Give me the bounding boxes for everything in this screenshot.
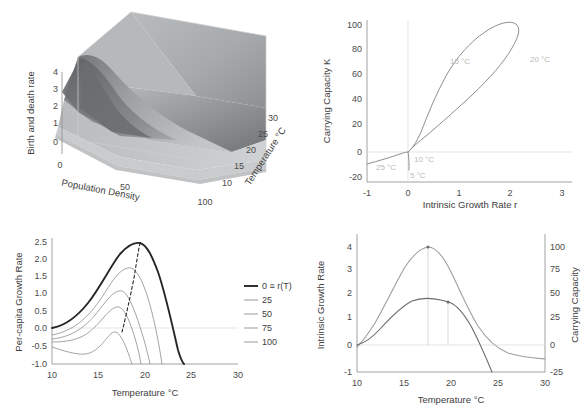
y-tick-left: 0 [347,340,352,350]
panel-r-K-tradeoff: 100 80 60 40 20 0 -20 -1 0 1 2 3 [300,0,587,210]
y-tick-left: 4 [347,242,352,252]
y-tick-right: 75 [550,264,560,274]
y-tick: 2.0 [34,254,47,264]
panel-b-svg: 100 80 60 40 20 0 -20 -1 0 1 2 3 [300,0,587,210]
y-tick: 1.5 [34,271,47,281]
y-tick-right: 25 [550,312,560,322]
annot-10c: 10 °C [414,155,434,164]
x-tick: 2 [507,188,512,198]
x-tick: 20 [140,370,150,380]
y-ticks-c: 2.5 2.0 1.5 1.0 0.5 0.0 -0.5 -1.0 [31,237,47,369]
growth-curve-0-rT [52,243,184,364]
y-tick-right: 50 [550,288,560,298]
y-axis-label-c: Per-capita Growth Rate [13,252,24,351]
y-tick: 0.0 [34,323,47,333]
x-tick: 25 [493,378,503,388]
x-tick: 0 [405,188,410,198]
x-tick: -1 [363,188,371,198]
y-tick: 15 [234,161,244,171]
peak-markers [427,246,450,304]
annot-25c: 25 °C [376,163,396,172]
panel-surface-birth-death: 4 3 2 1 0 Birth and death rate 0 50 100 … [0,0,300,210]
y-tick-right: -25 [550,367,563,377]
y-tick-left: 1 [347,312,352,322]
z-axis-birth-death-rate: 4 3 2 1 0 Birth and death rate [25,67,62,155]
y-axis-label-b: Carrying Capacity K [321,58,332,143]
y-tick: 60 [352,69,362,79]
panel-per-capita-growth: 2.5 2.0 1.5 1.0 0.5 0.0 -0.5 -1.0 10 15 … [0,210,300,409]
y-tick: 30 [268,113,278,123]
growth-curve-25 [52,268,162,364]
y-tick: -20 [349,172,362,182]
y-tick: 2.5 [34,237,47,247]
peak-marker-r [447,301,450,304]
x-axis-label: Population Density [61,177,141,203]
growth-curve-50 [52,291,150,364]
y-ticks-right-d: 100 75 50 25 0 -25 [550,242,565,377]
x-tick: 15 [93,370,103,380]
y-tick: 20 [246,145,256,155]
legend-label-0: 0 ≡ r(T) [262,281,292,291]
y-tick: 0.5 [34,306,47,316]
y-tick-left: 3 [347,264,352,274]
annot-5c: 5 °C [410,171,426,180]
legend-item-100[interactable]: 100 [244,337,277,347]
legend-item-50[interactable]: 50 [244,309,272,319]
legend-item-0[interactable]: 0 ≡ r(T) [244,281,292,291]
z-tick: 0 [53,137,58,147]
panel-r-and-K-vs-temperature: 4 3 2 1 0 -1 100 75 50 25 0 -25 10 [300,210,587,409]
plot-area-b: 100 80 60 40 20 0 -20 -1 0 1 2 3 [321,20,572,210]
temperature-annotations-b: 5 °C 10 °C 15 °C 20 °C 25 °C [376,55,550,180]
z-tick: 3 [53,84,58,94]
y-axis-label-right-d: Carrying Capacity [569,267,580,343]
x-tick: 100 [197,197,212,207]
panel-c-svg: 2.5 2.0 1.5 1.0 0.5 0.0 -0.5 -1.0 10 15 … [0,210,300,409]
y-tick: 80 [352,44,362,54]
growth-curve-75 [52,307,141,364]
x-tick: 30 [233,370,243,380]
x-ticks-b: -1 0 1 2 3 [363,188,565,198]
plot-area-c: 2.5 2.0 1.5 1.0 0.5 0.0 -0.5 -1.0 10 15 … [13,237,243,398]
x-tick: 15 [399,378,409,388]
y-tick-left: -1 [344,367,352,377]
growth-curve-family [52,243,184,364]
x-tick: 0 [57,160,62,170]
y-tick: 0 [357,147,362,157]
y-tick: 1.0 [34,288,47,298]
panel-d-svg: 4 3 2 1 0 -1 100 75 50 25 0 -25 10 [300,210,587,409]
x-axis-label-c: Temperature °C [112,387,179,398]
x-axis-label-d: Temperature °C [418,394,485,405]
x-tick: 30 [540,378,550,388]
legend-density: 0 ≡ r(T) 25 50 75 100 [244,281,292,347]
z-axis-label: Birth and death rate [25,71,36,154]
x-tick: 25 [186,370,196,380]
y-tick: 20 [352,119,362,129]
y-ticks-b: 100 80 60 40 20 0 -20 [347,20,362,182]
x-tick: 1 [456,188,461,198]
x-axis-label-b: Intrinsic Growth Rate r [423,199,518,210]
legend-item-25[interactable]: 25 [244,295,272,305]
legend-label-100: 100 [262,337,277,347]
y-tick: 10 [222,178,232,188]
multi-panel-figure: 4 3 2 1 0 Birth and death rate 0 50 100 … [0,0,587,409]
x-ticks-c: 10 15 20 25 30 [47,370,243,380]
rk-curve [367,22,519,170]
y-tick: 40 [352,94,362,104]
legend-label-25: 25 [262,295,272,305]
panel-a-svg: 4 3 2 1 0 Birth and death rate 0 50 100 … [0,0,300,210]
legend-item-75[interactable]: 75 [244,323,272,333]
y-tick-right: 100 [550,242,565,252]
z-tick: 2 [53,101,58,111]
x-tick: 20 [446,378,456,388]
intrinsic-growth-rate-curve [357,298,492,372]
y-tick: -1.0 [31,359,47,369]
y-tick: 100 [347,20,362,30]
annot-20c: 20 °C [530,55,550,64]
y-axis-label-left-d: Intrinsic Growth Rate [315,261,326,350]
x-ticks-d: 10 15 20 25 30 [352,378,550,388]
z-tick: 1 [53,118,58,128]
annot-15c: 15 °C [450,57,470,66]
y-tick: 25 [258,129,268,139]
y-tick-left: 2 [347,288,352,298]
legend-label-75: 75 [262,323,272,333]
